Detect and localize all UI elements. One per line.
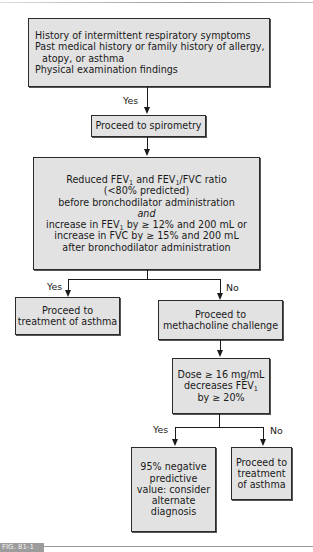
dose-line-2: decreases FEV1 <box>184 380 258 391</box>
connector-criteria-branch <box>68 279 221 280</box>
edge-label-yes: Yes <box>123 96 138 106</box>
connector-criteria-no <box>220 279 221 294</box>
treatment-2-line-3: of asthma <box>237 479 285 490</box>
criteria-line-4: and <box>137 208 155 219</box>
history-line-1: History of intermittent respiratory symp… <box>35 30 263 41</box>
treatment-asthma-box-1: Proceed to treatment of asthma <box>15 297 120 335</box>
npv-line-4: alternate <box>152 495 196 506</box>
figure-label: FIG. 81-1 <box>0 543 44 552</box>
connector-dose-branch <box>175 427 264 428</box>
npv-line-2: predictive <box>150 473 198 484</box>
criteria-line-1: Reduced FEV1 and FEV1/FVC ratio <box>66 174 227 185</box>
treatment-2-line-2: treatment <box>237 468 285 479</box>
dose-criteria-box: Dose ≥ 16 mg/mL decreases FEV1 by ≥ 20% <box>172 358 270 414</box>
edge-label-no: No <box>226 283 239 293</box>
criteria-line-7: after bronchodilator administration <box>62 242 230 253</box>
methacholine-line-1: Proceed to <box>195 309 246 320</box>
treatment-1-line-2: treatment of asthma <box>18 316 117 327</box>
arrowhead-icon <box>217 293 223 300</box>
npv-line-3: value: consider <box>137 484 210 495</box>
methacholine-box: Proceed to methacholine challenge <box>158 300 283 340</box>
history-box: History of intermittent respiratory symp… <box>28 18 270 87</box>
history-line-4: Physical examination findings <box>35 64 263 75</box>
methacholine-line-2: methacholine challenge <box>163 320 278 331</box>
arrowhead-icon <box>260 439 266 446</box>
connector-dose-stem <box>219 414 220 428</box>
criteria-line-2: (<80% predicted) <box>104 185 189 196</box>
criteria-line-6: increase in FVC by ≥ 15% and 200 mL <box>54 230 239 241</box>
spirometry-box: Proceed to spirometry <box>91 115 206 137</box>
npv-line-1: 95% negative <box>140 461 206 472</box>
criteria-line-5: increase in FEV1 by ≥ 12% and 200 mL or <box>46 219 247 230</box>
connector-history-spirometry <box>147 87 148 108</box>
treatment-asthma-box-2: Proceed to treatment of asthma <box>231 447 292 500</box>
arrowhead-icon <box>217 350 223 357</box>
history-line-2: Past medical history or family history o… <box>35 41 263 52</box>
dose-line-1: Dose ≥ 16 mg/mL <box>178 369 265 380</box>
figure-rule <box>0 546 313 547</box>
edge-label-yes: Yes <box>47 282 62 292</box>
spirometry-criteria-box: Reduced FEV1 and FEV1/FVC ratio (<80% pr… <box>33 157 260 270</box>
negative-predictive-box: 95% negative predictive value: consider … <box>131 447 216 532</box>
arrowhead-icon <box>172 439 178 446</box>
arrowhead-icon <box>144 149 150 156</box>
edge-label-yes: Yes <box>153 425 168 435</box>
treatment-1-line-1: Proceed to <box>42 305 93 316</box>
npv-line-5: diagnosis <box>151 506 196 517</box>
arrowhead-icon <box>144 107 150 114</box>
treatment-2-line-1: Proceed to <box>236 457 287 468</box>
edge-label-no: No <box>270 426 283 436</box>
spirometry-label: Proceed to spirometry <box>95 120 201 131</box>
arrowhead-icon <box>65 290 71 297</box>
criteria-line-3: before bronchodilator administration <box>58 197 235 208</box>
dose-line-3: by ≥ 20% <box>197 392 244 403</box>
history-line-3: atopy, or asthma <box>35 53 263 64</box>
top-rule <box>0 2 313 3</box>
